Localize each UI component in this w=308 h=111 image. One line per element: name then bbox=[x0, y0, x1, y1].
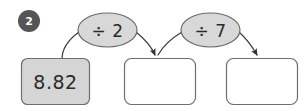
function-machine-diagram: 2 8.82 ÷ 2 bbox=[0, 0, 308, 111]
connector-op1-to-box2 bbox=[136, 32, 155, 55]
connector-box1-to-op1 bbox=[62, 32, 79, 59]
operation-divide-by-7: ÷ 7 bbox=[181, 13, 240, 47]
operation-divide-by-2: ÷ 2 bbox=[78, 13, 137, 47]
answer-box-1-shape[interactable] bbox=[125, 59, 196, 105]
answer-box-2[interactable] bbox=[227, 59, 298, 105]
problem-number-badge: 2 bbox=[18, 10, 40, 32]
start-value-label: 8.82 bbox=[33, 71, 77, 93]
badge-number-label: 2 bbox=[25, 15, 33, 28]
operation-divide-by-2-label: ÷ 2 bbox=[92, 21, 124, 41]
answer-box-1[interactable] bbox=[125, 59, 196, 105]
answer-box-2-shape[interactable] bbox=[227, 59, 298, 105]
operation-divide-by-7-label: ÷ 7 bbox=[195, 21, 227, 41]
connector-box2-to-op2 bbox=[158, 32, 182, 55]
start-value-box: 8.82 bbox=[22, 59, 90, 105]
connector-op2-to-box3 bbox=[239, 32, 257, 55]
worksheet-problem-item: 2 8.82 ÷ 2 bbox=[0, 0, 308, 111]
